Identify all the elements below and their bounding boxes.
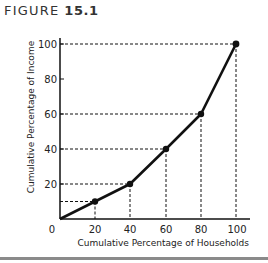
y-tick-100: 100 [38, 39, 57, 50]
x-tick-20: 20 [89, 224, 102, 235]
point-80-60 [198, 111, 204, 117]
x-axis-label: Cumulative Percentage of Households [77, 238, 249, 248]
point-60-40 [163, 146, 169, 152]
lorenz-chart: 20 40 60 80 100 0 20 40 60 80 100 Cumula… [0, 0, 268, 263]
point-100-100 [233, 41, 240, 48]
bottom-rule [0, 257, 268, 260]
y-tick-20: 20 [44, 179, 57, 190]
lorenz-curve [60, 44, 236, 219]
y-axis-label: Cumulative Percentage of Income [26, 40, 36, 193]
x-tick-100: 100 [227, 224, 246, 235]
x-tick-0: 0 [49, 224, 55, 235]
point-40-20 [127, 181, 133, 187]
y-tick-80: 80 [44, 74, 57, 85]
guide-lines [60, 44, 236, 219]
y-tick-40: 40 [44, 144, 57, 155]
x-tick-40: 40 [124, 224, 137, 235]
x-tick-60: 60 [160, 224, 173, 235]
y-tick-60: 60 [44, 109, 57, 120]
point-20-10 [92, 198, 98, 204]
x-tick-80: 80 [195, 224, 208, 235]
